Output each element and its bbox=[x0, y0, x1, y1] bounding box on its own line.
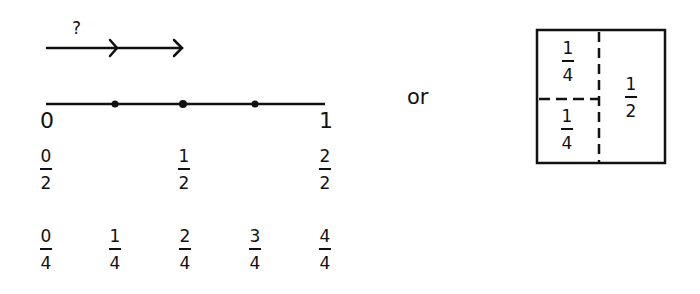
fraction-0-4: 04 bbox=[34, 226, 58, 273]
fraction-1-2: 12 bbox=[172, 146, 196, 193]
area-fraction-top-left: 14 bbox=[556, 38, 580, 85]
number-line bbox=[46, 100, 325, 108]
jump-arrows bbox=[47, 40, 182, 56]
fraction-1-4: 14 bbox=[103, 226, 127, 273]
number-line-start-label: 0 bbox=[40, 110, 54, 132]
area-fraction-bottom-left: 14 bbox=[555, 106, 579, 153]
area-fraction-right: 12 bbox=[619, 74, 643, 121]
number-line-end-label: 1 bbox=[319, 110, 333, 132]
fraction-3-4: 34 bbox=[243, 226, 267, 273]
fraction-4-4: 44 bbox=[313, 226, 337, 273]
fraction-2-4: 24 bbox=[173, 226, 197, 273]
arrow-question-label: ? bbox=[72, 18, 81, 38]
or-connector: or bbox=[407, 86, 428, 108]
fraction-0-2: 02 bbox=[34, 146, 58, 193]
fraction-2-2: 22 bbox=[313, 146, 337, 193]
